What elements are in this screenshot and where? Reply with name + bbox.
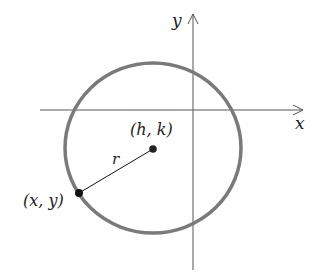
radius-label: r (112, 152, 119, 167)
circle-point (75, 189, 83, 197)
point-label: (x, y) (23, 193, 64, 209)
center-label: (h, k) (130, 122, 173, 138)
x-axis-label: x (295, 115, 305, 132)
center-point (149, 145, 157, 153)
y-axis-label: y (172, 12, 182, 29)
